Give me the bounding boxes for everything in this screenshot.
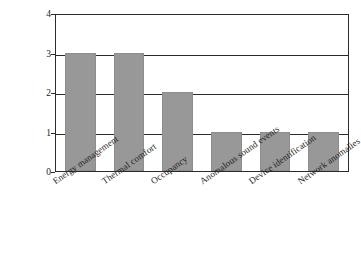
y-tick-label-1: 1: [37, 128, 51, 138]
y-tick-label-2: 2: [37, 88, 51, 98]
bar-chart-figure: Quantity of studies 0 1 2 3 4 Energy man…: [0, 0, 361, 273]
y-tick-label-3: 3: [37, 49, 51, 59]
x-axis-tick-labels: Energy managementThermal comfortOccupanc…: [0, 172, 361, 273]
y-tick-label-4: 4: [37, 9, 51, 19]
